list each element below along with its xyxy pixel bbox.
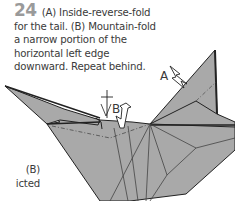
label-b: B [112,102,120,116]
label-a: A [160,69,169,83]
arrow-a: A [160,66,187,88]
origami-diagram: A B [0,0,235,201]
paper-tail [150,50,235,127]
